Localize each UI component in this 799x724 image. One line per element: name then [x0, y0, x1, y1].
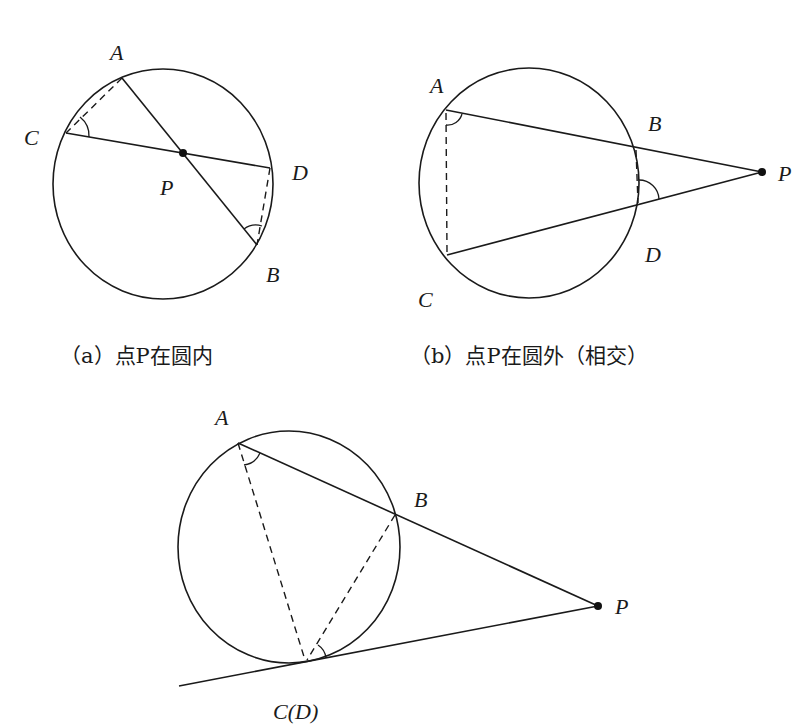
label-p: P — [777, 161, 791, 186]
label-c: C — [418, 287, 433, 312]
dashed-ac — [446, 113, 447, 253]
point-p-dot — [758, 168, 766, 176]
label-b: B — [648, 111, 661, 136]
tangent-line — [179, 606, 598, 686]
label-a: A — [213, 405, 229, 430]
angle-mark-a — [446, 114, 462, 125]
caption-a: （a）点P在圆内 — [60, 344, 213, 368]
figure-b-point-outside-secants: A B P D C （b）点P在圆外（相交） — [410, 68, 791, 368]
label-b: B — [414, 487, 427, 512]
secant-ap — [446, 110, 762, 172]
label-a: A — [428, 73, 444, 98]
label-b: B — [266, 262, 279, 287]
point-p-dot — [179, 149, 187, 157]
angle-mark-d — [639, 180, 659, 199]
angle-mark-a — [244, 453, 260, 465]
figure-a-point-inside: A C D P B （a）点P在圆内 — [24, 40, 308, 368]
point-p-dot — [594, 602, 602, 610]
circle-b — [419, 68, 639, 298]
dashed-ac — [238, 443, 305, 660]
label-d: D — [291, 160, 308, 185]
label-p: P — [614, 594, 628, 619]
label-a: A — [108, 40, 124, 65]
label-p: P — [159, 175, 173, 200]
secant-ap — [238, 443, 598, 606]
dashed-db — [257, 168, 270, 245]
angle-mark-c — [80, 117, 89, 137]
label-d: D — [644, 242, 661, 267]
figure-c-point-outside-tangent: A B P C(D) — [178, 405, 628, 724]
dashed-ac — [66, 78, 122, 133]
chord-cd — [66, 133, 270, 168]
geometry-figure: A C D P B （a）点P在圆内 A B P D C （b）点P在圆外（相交… — [0, 0, 799, 724]
caption-b: （b）点P在圆外（相交） — [410, 344, 648, 368]
label-c-d: C(D) — [273, 699, 318, 724]
label-c: C — [24, 125, 39, 150]
secant-cp — [447, 172, 762, 255]
dashed-bc — [307, 515, 395, 660]
